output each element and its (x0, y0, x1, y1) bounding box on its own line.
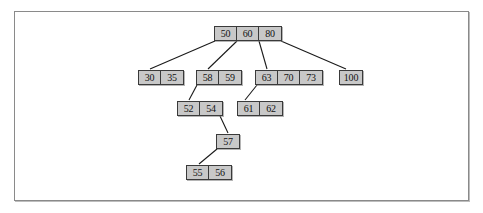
node-key-cell: 58 (197, 71, 219, 84)
tree-node-n-30-35: 3035 (138, 70, 184, 85)
node-key-cell: 35 (161, 71, 183, 84)
btree-figure: 5060803035585963707310052546162575556 (0, 0, 483, 213)
node-key-cell: 73 (300, 71, 322, 84)
node-key-cell: 63 (256, 71, 278, 84)
tree-node-n-58-59: 5859 (196, 70, 242, 85)
tree-node-root: 506080 (214, 26, 282, 41)
node-key-cell: 55 (187, 166, 209, 179)
node-key-cell: 59 (219, 71, 241, 84)
node-key-cell: 57 (217, 135, 239, 148)
node-key-cell: 100 (340, 71, 362, 84)
node-key-cell: 60 (237, 27, 259, 40)
node-key-cell: 30 (139, 71, 161, 84)
node-key-cell: 54 (200, 102, 222, 115)
node-key-cell: 50 (215, 27, 237, 40)
tree-node-n-52-54: 5254 (177, 101, 223, 116)
node-key-cell: 52 (178, 102, 200, 115)
tree-node-n-57: 57 (216, 134, 240, 149)
node-key-cell: 62 (260, 102, 282, 115)
tree-node-n-100: 100 (339, 70, 363, 85)
node-key-cell: 61 (238, 102, 260, 115)
tree-node-n-55-56: 5556 (186, 165, 232, 180)
node-key-cell: 80 (259, 27, 281, 40)
node-key-cell: 70 (278, 71, 300, 84)
node-key-cell: 56 (209, 166, 231, 179)
tree-node-n-63-70-73: 637073 (255, 70, 323, 85)
tree-node-n-61-62: 6162 (237, 101, 283, 116)
